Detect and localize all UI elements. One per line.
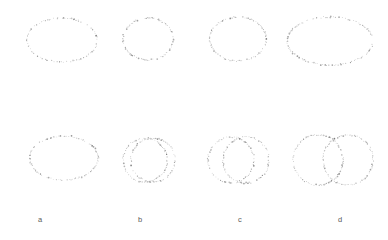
- contour-point: [234, 137, 235, 138]
- contour-point: [160, 20, 161, 21]
- contour-point: [307, 20, 308, 21]
- contour-point: [158, 18, 160, 20]
- contour-point: [127, 51, 128, 52]
- contour-point: [145, 59, 146, 60]
- contour-point: [72, 60, 74, 62]
- contour-point: [350, 135, 351, 136]
- contour-point: [372, 168, 373, 169]
- contour-point: [135, 173, 136, 174]
- contour-point: [292, 51, 293, 52]
- contour-point: [130, 158, 131, 159]
- contour-point: [229, 144, 230, 145]
- contour-point: [54, 61, 55, 62]
- contour-point: [253, 154, 254, 155]
- contour-point: [322, 64, 323, 65]
- contour-point: [154, 179, 155, 180]
- contour-point: [164, 149, 165, 150]
- contour-point: [223, 57, 224, 58]
- contour-point: [295, 148, 296, 149]
- contour-point: [127, 172, 128, 173]
- contour-point: [233, 179, 234, 180]
- contour-point: [158, 142, 159, 143]
- contour-point: [328, 64, 329, 65]
- contour-point: [348, 184, 349, 185]
- contour-point: [129, 26, 130, 27]
- contour-point: [76, 59, 77, 60]
- contour-point: [161, 56, 162, 57]
- contour-point: [251, 19, 252, 20]
- contour-point: [247, 144, 248, 145]
- contour-point: [328, 176, 329, 177]
- contour-point: [47, 138, 48, 139]
- panel-label-b: b: [138, 216, 142, 224]
- contour-point: [250, 183, 251, 184]
- contour-point: [67, 18, 68, 19]
- contour-point: [152, 180, 153, 181]
- contour-point: [210, 149, 211, 150]
- contour-point: [207, 158, 208, 159]
- contour-point: [327, 146, 328, 147]
- contour-point: [131, 23, 132, 24]
- contour-point: [96, 46, 97, 47]
- contour-point: [165, 23, 166, 24]
- contour-point: [164, 54, 165, 55]
- contour-point: [338, 145, 340, 147]
- contour-point: [343, 159, 344, 160]
- contour-point: [210, 34, 211, 35]
- contour-point: [313, 18, 314, 19]
- contour-point: [216, 25, 217, 26]
- contour-point: [323, 159, 324, 160]
- contour-point: [249, 182, 250, 183]
- contour-point: [229, 18, 231, 20]
- contour-point: [51, 137, 52, 138]
- panel-bottom-c: [207, 136, 270, 184]
- contour-point: [144, 139, 145, 140]
- panel-top-a: [26, 17, 98, 63]
- contour-point: [294, 53, 296, 55]
- contour-point: [324, 150, 325, 151]
- contour-point: [345, 134, 346, 135]
- contour-point: [306, 181, 307, 182]
- contour-point: [287, 37, 289, 39]
- contour-point: [303, 59, 304, 60]
- contour-point: [53, 136, 54, 137]
- contour-point: [31, 163, 32, 164]
- contour-point: [167, 176, 168, 177]
- contour-point: [237, 181, 238, 182]
- contour-point: [354, 60, 355, 61]
- contour-point: [175, 156, 176, 157]
- contour-point: [129, 54, 130, 55]
- contour-point: [28, 45, 29, 46]
- contour-point: [166, 156, 167, 157]
- contour-point: [266, 38, 268, 40]
- contour-point: [36, 171, 37, 172]
- contour-point: [95, 148, 97, 150]
- contour-point: [253, 137, 254, 138]
- contour-point: [354, 184, 355, 185]
- contour-point: [54, 136, 55, 137]
- contour-point: [30, 48, 31, 49]
- contour-point: [370, 33, 371, 34]
- contour-point: [130, 156, 131, 157]
- contour-point: [250, 171, 251, 172]
- contour-point: [174, 166, 175, 167]
- contour-point: [134, 21, 135, 22]
- contour-point: [166, 165, 167, 166]
- contour-point: [76, 138, 77, 139]
- contour-point: [31, 164, 32, 165]
- contour-point: [30, 161, 31, 162]
- contour-point: [337, 176, 339, 178]
- contour-point: [322, 157, 323, 158]
- contour-point: [125, 47, 126, 48]
- contour-point: [139, 178, 140, 179]
- contour-point: [363, 179, 364, 180]
- contour-point: [48, 177, 50, 179]
- contour-point: [172, 41, 174, 43]
- contour-point: [245, 18, 246, 19]
- contour-point: [170, 173, 171, 174]
- contour-point: [135, 140, 137, 142]
- contour-point: [251, 58, 252, 59]
- contour-point: [265, 33, 266, 34]
- contour-point: [341, 135, 342, 136]
- contour-point: [142, 178, 143, 179]
